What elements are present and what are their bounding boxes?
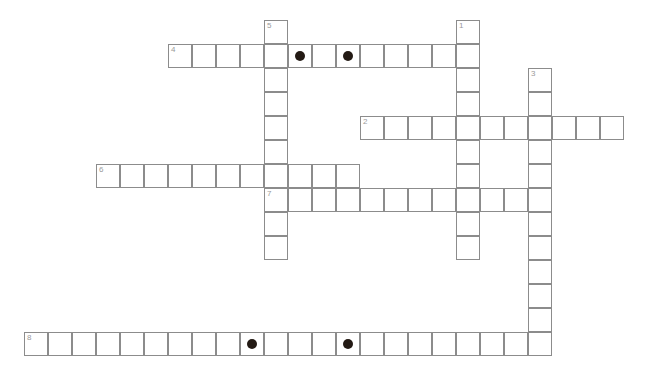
crossword-cell[interactable]	[264, 164, 288, 188]
crossword-cell[interactable]	[264, 140, 288, 164]
crossword-cell[interactable]	[192, 164, 216, 188]
crossword-cell[interactable]	[192, 44, 216, 68]
crossword-cell[interactable]	[528, 284, 552, 308]
crossword-cell[interactable]	[504, 332, 528, 356]
crossword-cell[interactable]	[432, 116, 456, 140]
crossword-cell[interactable]	[408, 116, 432, 140]
crossword-cell[interactable]	[264, 236, 288, 260]
crossword-cell[interactable]	[48, 332, 72, 356]
crossword-cell[interactable]	[216, 164, 240, 188]
crossword-cell[interactable]: 5	[264, 20, 288, 44]
crossword-cell[interactable]: 1	[456, 20, 480, 44]
crossword-cell[interactable]	[264, 68, 288, 92]
crossword-cell[interactable]	[216, 332, 240, 356]
cell-circle-marker-icon	[343, 51, 353, 61]
crossword-cell[interactable]	[264, 332, 288, 356]
crossword-cell[interactable]	[264, 212, 288, 236]
crossword-cell[interactable]	[384, 188, 408, 212]
crossword-cell[interactable]	[480, 116, 504, 140]
crossword-cell[interactable]	[456, 68, 480, 92]
crossword-cell[interactable]	[144, 164, 168, 188]
crossword-cell[interactable]: 7	[264, 188, 288, 212]
crossword-cell[interactable]	[168, 164, 192, 188]
crossword-cell[interactable]	[408, 188, 432, 212]
crossword-cell[interactable]: 4	[168, 44, 192, 68]
crossword-cell[interactable]	[456, 164, 480, 188]
crossword-cell[interactable]	[192, 332, 216, 356]
crossword-cell[interactable]: 2	[360, 116, 384, 140]
crossword-cell[interactable]	[384, 44, 408, 68]
crossword-cell[interactable]	[312, 44, 336, 68]
crossword-cell[interactable]	[552, 116, 576, 140]
crossword-cell[interactable]	[528, 260, 552, 284]
crossword-cell[interactable]	[504, 116, 528, 140]
crossword-cell[interactable]	[72, 332, 96, 356]
crossword-cell[interactable]	[528, 308, 552, 332]
crossword-cell[interactable]	[264, 92, 288, 116]
crossword-cell[interactable]	[528, 140, 552, 164]
crossword-cell[interactable]: 6	[96, 164, 120, 188]
cell-number: 3	[531, 69, 535, 79]
crossword-cell[interactable]	[408, 44, 432, 68]
crossword-cell[interactable]	[504, 188, 528, 212]
crossword-cell[interactable]	[456, 332, 480, 356]
crossword-cell[interactable]	[408, 332, 432, 356]
cell-circle-marker-icon	[343, 339, 353, 349]
crossword-cell[interactable]: 8	[24, 332, 48, 356]
crossword-cell[interactable]	[528, 92, 552, 116]
cell-number: 6	[99, 165, 103, 175]
crossword-cell[interactable]	[456, 92, 480, 116]
crossword-cell[interactable]	[288, 188, 312, 212]
crossword-cell[interactable]	[360, 44, 384, 68]
crossword-cell[interactable]	[528, 164, 552, 188]
crossword-cell[interactable]	[312, 332, 336, 356]
crossword-cell[interactable]	[264, 116, 288, 140]
crossword-cell[interactable]	[384, 332, 408, 356]
crossword-cell[interactable]	[288, 164, 312, 188]
crossword-cell[interactable]	[528, 212, 552, 236]
crossword-cell[interactable]	[456, 236, 480, 260]
crossword-cell[interactable]	[144, 332, 168, 356]
crossword-cell[interactable]	[432, 188, 456, 212]
crossword-cell[interactable]	[336, 332, 360, 356]
cell-circle-marker-icon	[295, 51, 305, 61]
crossword-cell[interactable]	[360, 188, 384, 212]
crossword-cell[interactable]	[384, 116, 408, 140]
crossword-cell[interactable]	[336, 188, 360, 212]
cell-number: 7	[267, 189, 271, 199]
crossword-cell[interactable]	[336, 44, 360, 68]
crossword-cell[interactable]	[480, 332, 504, 356]
crossword-cell[interactable]	[456, 212, 480, 236]
crossword-cell[interactable]	[432, 332, 456, 356]
crossword-cell[interactable]	[288, 44, 312, 68]
crossword-cell[interactable]	[216, 44, 240, 68]
crossword-cell[interactable]	[480, 188, 504, 212]
cell-number: 5	[267, 21, 271, 31]
crossword-cell[interactable]	[576, 116, 600, 140]
crossword-cell[interactable]	[120, 332, 144, 356]
crossword-cell[interactable]	[432, 44, 456, 68]
crossword-cell[interactable]	[528, 188, 552, 212]
crossword-board[interactable]: 51432678	[0, 0, 665, 368]
crossword-cell[interactable]	[96, 332, 120, 356]
crossword-cell[interactable]	[528, 332, 552, 356]
crossword-cell[interactable]	[240, 164, 264, 188]
crossword-cell[interactable]	[312, 164, 336, 188]
crossword-cell[interactable]	[336, 164, 360, 188]
crossword-cell[interactable]	[528, 236, 552, 260]
crossword-cell[interactable]	[168, 332, 192, 356]
crossword-cell[interactable]	[456, 44, 480, 68]
crossword-cell[interactable]	[600, 116, 624, 140]
crossword-cell[interactable]	[456, 140, 480, 164]
crossword-cell[interactable]	[312, 188, 336, 212]
crossword-cell[interactable]	[240, 44, 264, 68]
crossword-cell[interactable]	[456, 188, 480, 212]
crossword-cell[interactable]	[120, 164, 144, 188]
crossword-cell[interactable]: 3	[528, 68, 552, 92]
crossword-cell[interactable]	[240, 332, 264, 356]
crossword-cell[interactable]	[264, 44, 288, 68]
crossword-cell[interactable]	[360, 332, 384, 356]
crossword-cell[interactable]	[456, 116, 480, 140]
crossword-cell[interactable]	[288, 332, 312, 356]
crossword-cell[interactable]	[528, 116, 552, 140]
